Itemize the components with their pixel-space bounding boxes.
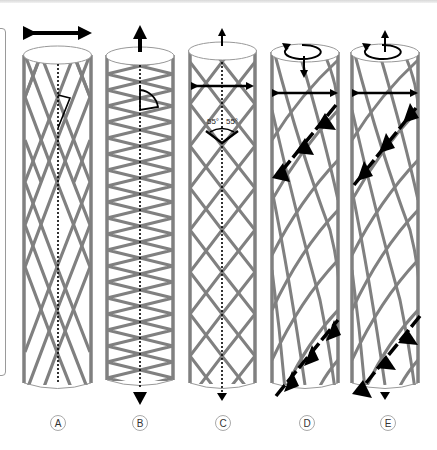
svg-text:A: A <box>55 418 62 429</box>
cylinder-d <box>271 43 341 396</box>
angle-label-right: 55° <box>226 117 238 126</box>
helix-arrows-top-e <box>354 103 419 185</box>
svg-text:D: D <box>303 418 310 429</box>
arrow-down-icon <box>217 393 227 401</box>
cylinder-b <box>106 32 174 405</box>
svg-text:E: E <box>385 418 392 429</box>
svg-text:C: C <box>219 418 226 429</box>
helix-arrows-top-d <box>272 105 336 182</box>
arrow-down-icon <box>380 392 390 400</box>
angle-label-left: 55° <box>207 117 219 126</box>
cylinder-c: 55° 55° <box>189 20 257 401</box>
fiber-helix-d <box>272 55 340 390</box>
label-c: C <box>216 416 231 431</box>
fiber-helix-c <box>190 20 255 398</box>
svg-text:B: B <box>137 418 144 429</box>
cylinder-e <box>351 34 420 400</box>
helix-diagram: 55° 55° <box>0 0 437 450</box>
label-d: D <box>300 416 315 431</box>
label-b: B <box>133 416 148 431</box>
cylinder-a <box>24 12 92 395</box>
label-a: A <box>51 416 66 431</box>
arrow-down-icon <box>133 392 147 405</box>
label-e: E <box>381 416 396 431</box>
panel-labels: A B C D E <box>51 416 396 431</box>
